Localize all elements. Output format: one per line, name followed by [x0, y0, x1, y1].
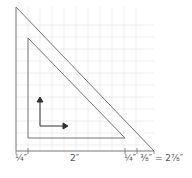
label-right-margin: ¼″ — [124, 152, 136, 164]
outer-triangle — [16, 7, 154, 151]
label-inner-width: 2″ — [70, 152, 79, 164]
axis-arrows-icon — [37, 97, 68, 129]
label-total: ⅜″ = 2⅞″ — [140, 152, 183, 164]
inner-triangle — [28, 38, 125, 138]
label-left-margin: ¼″ — [15, 152, 27, 164]
